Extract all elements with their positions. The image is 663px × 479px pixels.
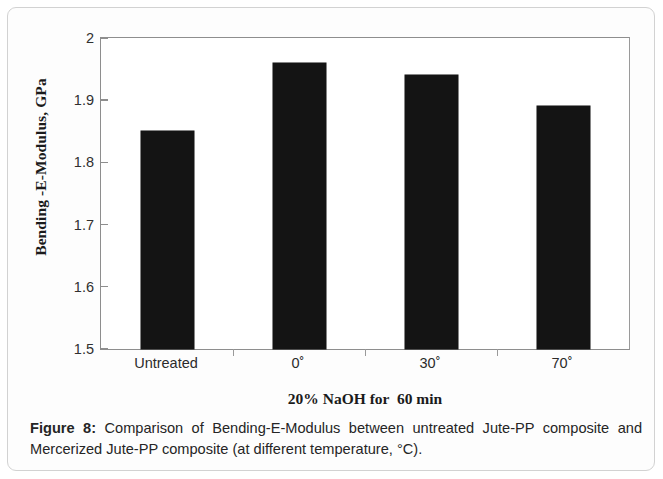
x-axis-tick-mark: [365, 349, 366, 356]
y-axis-tick: 2: [86, 30, 101, 46]
x-axis-category-label: Untreated: [134, 355, 198, 371]
y-axis-tick: 1.5: [74, 341, 101, 357]
bar: [273, 63, 326, 349]
y-axis-tick: 1.9: [74, 92, 101, 108]
y-axis-tick: 1.7: [74, 217, 101, 233]
figure-caption: Figure 8: Comparison of Bending-E-Modulu…: [30, 418, 642, 459]
x-axis-category-label: 30˚: [420, 355, 441, 371]
plot-area: 21.91.81.71.61.5: [100, 37, 630, 350]
y-axis-tick: 1.8: [74, 154, 101, 170]
bar: [537, 106, 590, 349]
bar: [141, 131, 194, 349]
x-axis-category-label: 70˚: [552, 355, 573, 371]
y-axis-title: Bending -E-Modulus, GPa: [32, 42, 50, 292]
figure-card: Bending -E-Modulus, GPa 21.91.81.71.61.5…: [7, 7, 655, 471]
y-axis-tick-label: 1.7: [74, 217, 101, 233]
y-axis-tick-label: 1.6: [74, 279, 101, 295]
x-axis-title: 20% NaOH for 60 min: [100, 390, 630, 408]
figure-caption-text: Comparison of Bending-E-Modulus between …: [30, 420, 642, 457]
y-axis-tick-label: 1.5: [74, 341, 101, 357]
bars-layer: [101, 38, 629, 349]
bar-chart: Bending -E-Modulus, GPa 21.91.81.71.61.5…: [8, 8, 656, 413]
y-axis-tick-label: 2: [86, 30, 101, 46]
x-axis-tick-mark: [233, 349, 234, 356]
y-axis-tick-label: 1.9: [74, 92, 101, 108]
figure-caption-label: Figure 8:: [30, 420, 96, 436]
x-axis-tick-mark: [497, 349, 498, 356]
y-axis-tick-label: 1.8: [74, 154, 101, 170]
bar: [405, 75, 458, 349]
y-axis-tick: 1.6: [74, 279, 101, 295]
x-axis-category-label: 0˚: [292, 355, 305, 371]
